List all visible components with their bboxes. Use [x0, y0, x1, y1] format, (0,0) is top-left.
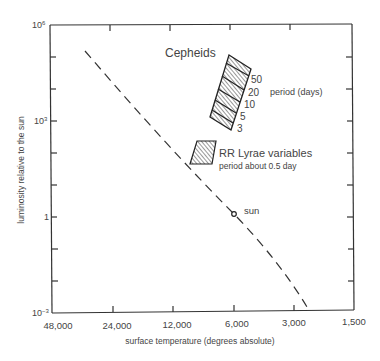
period-days-label: period (days): [270, 87, 323, 97]
y-tick-1: 1: [44, 212, 49, 222]
y-tick-1e3: 103: [34, 116, 48, 126]
x-tick-3000: 3,000: [282, 317, 306, 328]
rr-lyrae-period: period about 0.5 day: [219, 161, 297, 171]
y-tick-1e6: 106: [32, 20, 46, 30]
rr-lyrae-region: [190, 141, 216, 164]
period-20: 20: [248, 87, 260, 98]
y-tick-labels: 106 103 1 10−3: [32, 20, 50, 318]
x-tick-24000: 24,000: [102, 320, 131, 331]
x-tick-6000: 6,000: [225, 318, 249, 329]
rr-lyrae-label: RR Lyrae variables: [219, 147, 313, 159]
hr-diagram: 106 103 1 10−3 48,000 24,000 12,000 6,00…: [0, 0, 380, 361]
y-tick-1e-3: 10−3: [32, 308, 50, 318]
plot-frame: [50, 24, 354, 313]
x-tick-labels: 48,000 24,000 12,000 6,000 3,000 1,500: [43, 316, 365, 331]
period-10: 10: [244, 99, 256, 110]
x-tick-12000: 12,000: [162, 319, 191, 330]
x-tick-48000: 48,000: [43, 320, 72, 331]
cepheids-label: Cepheids: [165, 46, 216, 60]
period-5: 5: [240, 111, 246, 122]
x-axis-label: surface temperature (degrees absolute): [125, 336, 274, 346]
sun-label: sun: [244, 205, 259, 216]
y-axis-label: luminosity relative to the sun: [16, 116, 26, 224]
period-3: 3: [237, 123, 243, 134]
sun-marker: [232, 212, 237, 217]
period-50: 50: [251, 74, 263, 85]
x-tick-1500: 1,500: [342, 316, 366, 327]
